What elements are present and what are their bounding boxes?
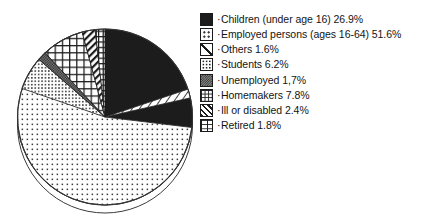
legend-swatch-grid-icon [200,89,213,102]
pie-svg [0,0,206,224]
legend-swatch-diagonal-hatch-icon [200,104,213,117]
pie-chart-graphic [0,0,206,224]
legend-item-ill-or-disabled[interactable]: Ill or disabled 2.4% [200,103,428,118]
legend-item-employed[interactable]: Employed persons (ages 16-64) 51.6% [200,27,428,42]
legend-label-retired: Retired 1.8% [217,120,281,131]
legend-swatch-sparse-dots-icon [200,28,213,41]
legend-label-unemployed: Unemployed 1,7% [217,75,306,86]
legend-swatch-diagonal-line-icon [200,43,213,56]
legend-label-employed: Employed persons (ages 16-64) 51.6% [217,29,401,40]
legend-label-students: Students 6.2% [217,59,289,70]
legend-item-others[interactable]: Others 1.6% [200,42,428,57]
chart-legend: Children (under age 16) 26.9% Employed p… [200,12,428,134]
legend-swatch-brick-icon [200,119,213,132]
legend-item-retired[interactable]: Retired 1.8% [200,118,428,133]
legend-swatch-dense-dots-icon [200,58,213,71]
legend-item-homemakers[interactable]: Homemakers 7.8% [200,88,428,103]
pie-slices [17,29,192,205]
legend-swatch-solid-black-icon [200,13,213,26]
legend-swatch-checkerboard-icon [200,74,213,87]
legend-label-homemakers: Homemakers 7.8% [217,90,309,101]
legend-label-ill-or-disabled: Ill or disabled 2.4% [217,105,309,116]
legend-item-students[interactable]: Students 6.2% [200,58,428,73]
legend-item-children[interactable]: Children (under age 16) 26.9% [200,12,428,27]
legend-label-children: Children (under age 16) 26.9% [217,14,363,25]
pie-chart-figure: Children (under age 16) 26.9% Employed p… [0,0,428,224]
legend-label-others: Others 1.6% [217,44,279,55]
legend-item-unemployed[interactable]: Unemployed 1,7% [200,73,428,88]
